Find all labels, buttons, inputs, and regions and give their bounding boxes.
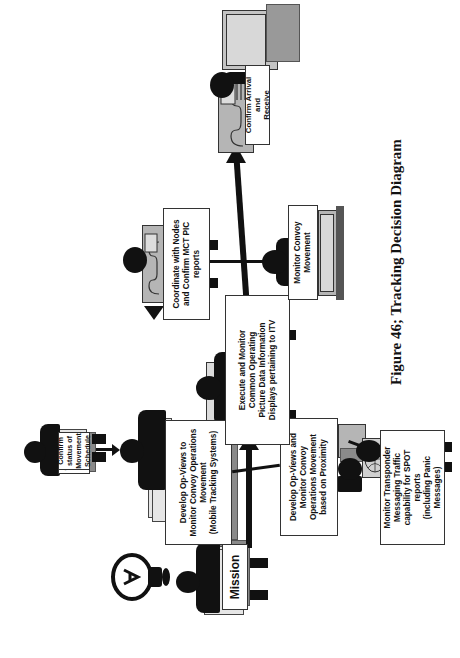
develop-op-views-mobile-box: Develop Op-Views to Monitor Convoy Opera… — [165, 420, 232, 545]
person-head-icon — [196, 376, 222, 400]
monitor-convoy-box: Monitor Convoy Movement — [288, 205, 318, 300]
person-head-icon — [24, 441, 46, 463]
confirm-status-label: Confirm status of Movement Schedule — [58, 432, 90, 470]
person-head-icon — [210, 72, 234, 98]
figure-caption: Figure 46; Tracking Decision Diagram — [388, 139, 405, 385]
person-head-icon — [356, 440, 382, 462]
coordinate-nodes-box: Coordinate with Nodes and Confirm MCT PI… — [163, 208, 210, 320]
person-body-icon — [196, 543, 220, 613]
keyboard-icon — [266, 4, 300, 62]
main-flow-arrow — [246, 448, 252, 548]
person-head-icon — [338, 458, 362, 480]
main-flow-arrow — [234, 158, 250, 308]
person-head-icon — [176, 571, 200, 593]
confirm-arrival-box: Confirm Arrival and Receive — [245, 65, 270, 145]
execute-monitor-cop-box: Execute and Monitor Common Operating Pic… — [225, 295, 290, 445]
arrow-down-icon — [112, 444, 120, 456]
person-head-icon — [123, 247, 147, 273]
telephone-icon — [143, 228, 165, 302]
mission-box: Mission — [222, 544, 248, 610]
lightbulb-icon — [110, 544, 172, 610]
person-head-icon — [120, 439, 144, 463]
connector-line — [232, 464, 280, 474]
monitor-transponder-box: Monitor Transponder Messaging Traffic ca… — [380, 430, 445, 545]
tracking-decision-diagram: Mission Confirm status of Confirm status… — [0, 0, 460, 658]
person-head-icon — [262, 250, 288, 274]
